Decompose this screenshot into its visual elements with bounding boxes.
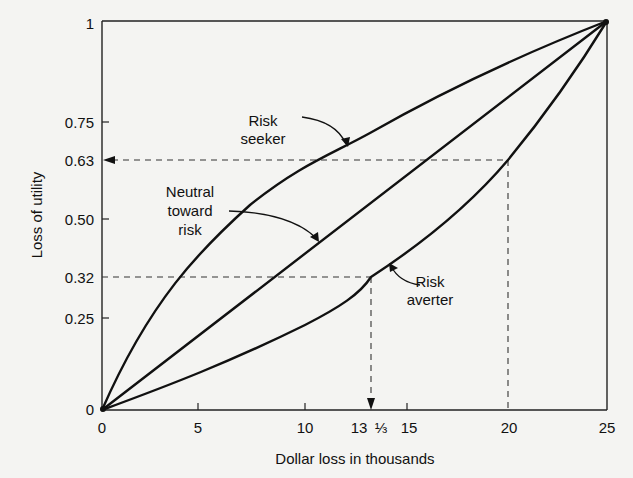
svg-text:toward: toward <box>167 202 212 219</box>
x-axis-title: Dollar loss in thousands <box>275 450 434 467</box>
x-tick-10: 10 <box>297 419 314 436</box>
y-tick-0.25: 0.25 <box>65 310 94 327</box>
x-tick-20: 20 <box>501 419 518 436</box>
y-tick-1: 1 <box>86 15 94 32</box>
y-ticks <box>102 122 109 318</box>
end-point <box>603 19 609 25</box>
x-tick-labels: 0 5 10 13 ⅓ 15 20 25 <box>98 419 616 436</box>
x-tick-25: 25 <box>599 419 616 436</box>
y-tick-0: 0 <box>86 401 94 418</box>
x-tick-0: 0 <box>98 419 106 436</box>
y-tick-0.75: 0.75 <box>65 114 94 131</box>
y-tick-0.63: 0.63 <box>65 152 94 169</box>
svg-text:risk: risk <box>178 221 202 238</box>
x-ticks <box>198 403 407 410</box>
svg-text:averter: averter <box>407 291 454 308</box>
origin-point <box>100 406 106 412</box>
x-tick-15: 15 <box>401 419 418 436</box>
svg-text:seeker: seeker <box>240 130 285 147</box>
svg-text:Risk: Risk <box>248 112 278 129</box>
x-tick-5: 5 <box>194 419 202 436</box>
annotation-risk-seeker: Risk seeker <box>240 112 350 147</box>
annotation-risk-averter: Risk averter <box>389 263 453 308</box>
reference-lines <box>102 160 508 410</box>
y-tick-labels: 1 0.75 0.63 0.50 0.32 0.25 0 <box>65 15 94 418</box>
x-tick-13-third: ⅓ <box>375 419 388 436</box>
utility-chart: 1 0.75 0.63 0.50 0.32 0.25 0 0 5 10 13 ⅓… <box>0 0 633 478</box>
arrow-to-13third-icon <box>367 398 375 410</box>
svg-text:Risk: Risk <box>415 273 445 290</box>
y-axis-title: Loss of utility <box>28 171 45 258</box>
y-tick-0.32: 0.32 <box>65 269 94 286</box>
y-tick-0.50: 0.50 <box>65 211 94 228</box>
svg-text:Neutral: Neutral <box>166 183 214 200</box>
arrow-to-0.63-icon <box>103 156 115 164</box>
x-tick-13: 13 <box>351 419 368 436</box>
